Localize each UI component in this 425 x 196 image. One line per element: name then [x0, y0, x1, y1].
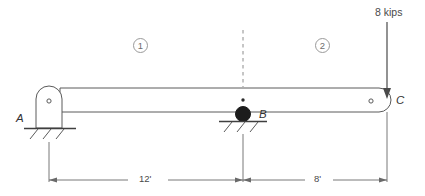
dimension-label-12ft: 12': [139, 174, 151, 184]
dimension-extension-lines: [49, 112, 387, 182]
segment-2-badge: 2: [315, 38, 330, 53]
segment-1-badge: 1: [133, 38, 148, 53]
point-c-label: C: [396, 95, 404, 107]
support-a-body: [36, 86, 62, 128]
beam-diagram-canvas: [0, 0, 425, 196]
beam-outline: [60, 88, 391, 112]
load-arrow-8kips: [383, 22, 391, 99]
dim-12ft-arrow-right: [235, 178, 243, 183]
segment-1-label: 1: [138, 40, 143, 51]
dim-8ft-arrow-right: [379, 178, 387, 183]
support-b-roller-circle: [236, 107, 251, 122]
support-a-pin-hole: [47, 99, 51, 103]
dim-8ft-arrow-left: [243, 178, 251, 183]
beam-end-c-pin-hole: [369, 99, 373, 103]
support-b-hatching: [224, 122, 258, 132]
support-a-label: A: [16, 113, 24, 125]
support-a-hatching: [30, 129, 64, 139]
beam-diagram: 8 kips A B C 1 2 12' 8': [0, 0, 425, 196]
load-label: 8 kips: [375, 7, 402, 18]
beam-member: [60, 88, 391, 112]
segment-2-label: 2: [320, 40, 325, 51]
support-b-label: B: [259, 109, 267, 121]
beam-centroid-dot: [241, 98, 244, 101]
dim-12ft-arrow-left: [49, 178, 57, 183]
dimension-label-8ft: 8': [314, 174, 321, 184]
